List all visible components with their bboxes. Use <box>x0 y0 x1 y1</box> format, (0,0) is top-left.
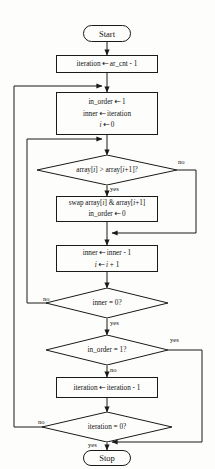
node-iteration-done-decision[interactable]: iteration = 0? <box>42 412 172 442</box>
node-inner-done-decision[interactable]: inner = 0? <box>46 288 168 318</box>
edge-label-iteration-done-yes: yes <box>88 441 97 448</box>
node-init-iteration-line1: iteration ← ar_cnt - 1 <box>77 58 138 70</box>
flowchart-canvas: Start iteration ← ar_cnt - 1 in_order ← … <box>0 0 215 469</box>
node-init-pass-line3: i ← 0 <box>100 119 115 131</box>
node-dec-iteration[interactable]: iteration ← iteration - 1 <box>56 377 158 398</box>
node-stop-label: Stop <box>99 453 115 463</box>
node-swap-line1: swap array[i] & array[i+1] <box>69 198 146 208</box>
node-advance-line1: inner ← inner - 1 <box>83 247 131 259</box>
node-compare-decision[interactable]: array[i] > array[i+1]? <box>37 155 177 185</box>
node-inner-done-label: inner = 0? <box>92 299 121 307</box>
node-in-order-check-label: in_order = 1? <box>88 346 127 354</box>
node-start-label: Start <box>99 29 115 39</box>
node-advance-line2: i ← i + 1 <box>95 259 120 271</box>
edge-label-compare-yes: yes <box>110 185 119 192</box>
node-compare-label: array[i] > array[i+1]? <box>76 166 138 174</box>
node-init-iteration[interactable]: iteration ← ar_cnt - 1 <box>56 55 158 73</box>
node-init-pass-line1: in_order ← 1 <box>88 96 125 108</box>
edge-label-in-order-yes: yes <box>170 336 179 343</box>
node-swap-line2: in_order ← 0 <box>88 208 125 220</box>
node-advance[interactable]: inner ← inner - 1 i ← i + 1 <box>56 245 158 272</box>
edge-label-in-order-no: no <box>110 366 117 373</box>
node-init-pass[interactable]: in_order ← 1 inner ← iteration i ← 0 <box>56 92 158 135</box>
node-start[interactable]: Start <box>83 25 131 42</box>
node-stop[interactable]: Stop <box>83 450 131 466</box>
edge-label-iteration-done-no: no <box>38 418 45 425</box>
node-in-order-check-decision[interactable]: in_order = 1? <box>46 335 168 365</box>
edge-label-inner-done-yes: yes <box>110 319 119 326</box>
edge-label-inner-done-no: no <box>43 295 50 302</box>
node-iteration-done-label: iteration = 0? <box>88 423 126 431</box>
node-swap[interactable]: swap array[i] & array[i+1] in_order ← 0 <box>56 196 158 222</box>
edge-label-compare-no: no <box>178 158 185 165</box>
node-dec-iteration-line1: iteration ← iteration - 1 <box>74 382 141 394</box>
node-init-pass-line2: inner ← iteration <box>83 108 131 120</box>
